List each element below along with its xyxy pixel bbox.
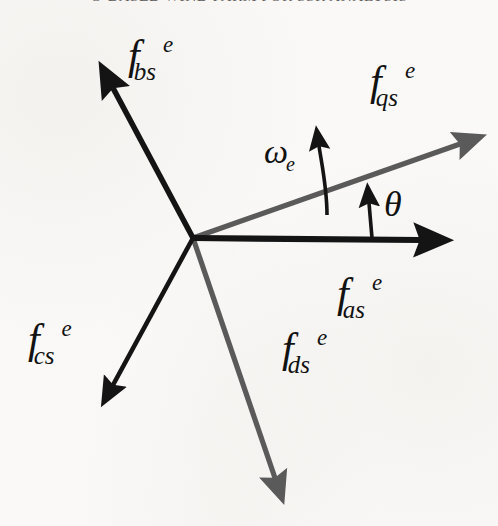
label-f-qs-sup: e xyxy=(405,58,415,83)
label-theta-base: θ xyxy=(384,184,402,224)
f-as-axis-line xyxy=(193,238,420,240)
f-cs-axis-line xyxy=(113,238,193,385)
running-header-text: O-BASED WIND FARM FOR SSR ANALYSIS xyxy=(91,0,408,5)
label-f-cs-sub: cs xyxy=(34,342,55,369)
label-f-as-sub: as xyxy=(343,296,365,323)
theta-arrow xyxy=(369,203,372,238)
label-f-ds-sub: ds xyxy=(288,351,310,378)
label-omega-e: ωe xyxy=(264,135,297,169)
label-f-bs: fbse xyxy=(128,34,172,76)
label-f-bs-sub: bs xyxy=(134,58,156,85)
label-f-qs-sub: qs xyxy=(376,84,398,111)
scanned-figure-page: O-BASED WIND FARM FOR SSR ANALYSIS fbs xyxy=(0,0,498,526)
omega-e-arrow xyxy=(319,146,327,215)
label-f-qs: fqse xyxy=(370,60,414,102)
running-header: O-BASED WIND FARM FOR SSR ANALYSIS xyxy=(0,0,498,14)
label-f-as: fase xyxy=(337,272,381,314)
label-omega-e-base: ω xyxy=(264,133,288,170)
label-f-cs: fcse xyxy=(28,318,71,360)
label-f-ds: fdse xyxy=(282,327,326,369)
label-f-ds-sup: e xyxy=(317,325,327,350)
label-theta: θ xyxy=(384,186,402,222)
label-f-cs-sup: e xyxy=(62,316,72,341)
label-omega-e-sub: e xyxy=(286,153,295,175)
f-ds-axis-line xyxy=(193,238,275,478)
phasor-axis-diagram xyxy=(0,0,498,526)
f-bs-axis-line xyxy=(113,88,193,238)
label-f-as-sup: e xyxy=(372,270,382,295)
label-f-bs-sup: e xyxy=(163,32,173,57)
